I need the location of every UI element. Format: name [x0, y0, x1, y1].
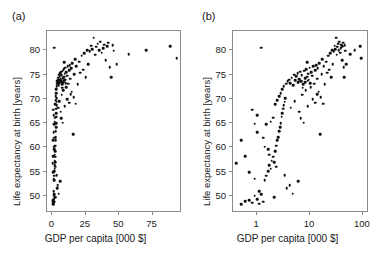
data-point: [253, 122, 256, 125]
data-point: [299, 117, 302, 120]
data-point: [145, 49, 148, 52]
data-point: [322, 103, 325, 106]
y-tick-mark: [43, 171, 46, 172]
panel-b-plot-area: [232, 30, 368, 212]
data-point: [299, 70, 302, 73]
x-tick-label: 50: [113, 218, 124, 229]
data-point: [63, 105, 66, 108]
data-point: [301, 93, 304, 96]
data-point: [71, 62, 74, 65]
data-point: [54, 196, 57, 199]
data-point: [54, 161, 57, 164]
data-point: [304, 89, 307, 92]
data-point: [335, 36, 338, 39]
data-point: [336, 45, 339, 48]
data-point: [269, 120, 272, 123]
data-point: [109, 66, 112, 69]
y-tick-mark: [43, 49, 46, 50]
data-point: [344, 50, 347, 53]
data-point: [54, 139, 57, 142]
data-point: [272, 117, 275, 120]
data-point: [274, 150, 277, 153]
data-point: [301, 86, 304, 89]
data-point: [66, 98, 69, 101]
data-point: [94, 53, 97, 56]
data-point: [54, 99, 57, 102]
data-point: [332, 63, 335, 66]
data-point: [253, 194, 256, 197]
panel-b-tag: (b): [202, 10, 215, 22]
y-tick-mark: [229, 122, 232, 123]
data-point: [279, 122, 282, 125]
data-point: [78, 60, 81, 63]
data-point: [57, 106, 60, 109]
data-point: [278, 130, 281, 133]
data-point: [291, 192, 294, 195]
x-tick-mark: [85, 212, 86, 215]
data-point: [256, 114, 259, 117]
data-point: [75, 65, 78, 68]
x-tick-mark: [152, 212, 153, 215]
data-point: [102, 47, 105, 50]
y-tick-mark: [229, 146, 232, 147]
data-point: [280, 116, 283, 119]
data-point: [316, 67, 319, 70]
data-point: [285, 83, 288, 86]
data-point: [53, 136, 56, 139]
x-tick-label: 25: [79, 218, 90, 229]
data-point: [298, 110, 301, 113]
data-point: [52, 162, 55, 165]
data-point: [67, 83, 70, 86]
data-point: [319, 133, 322, 136]
data-point: [53, 193, 56, 196]
data-point: [302, 121, 305, 124]
data-point: [55, 92, 58, 95]
data-point: [283, 101, 286, 104]
x-tick-label: 10: [304, 218, 315, 229]
data-point: [55, 95, 58, 98]
data-point: [288, 184, 291, 187]
data-point: [69, 93, 72, 96]
data-point: [279, 92, 282, 95]
data-point: [235, 162, 238, 165]
y-tick-label: 60: [204, 141, 226, 152]
data-point: [70, 67, 73, 70]
data-point: [349, 53, 352, 56]
data-point: [251, 202, 254, 205]
data-point: [339, 52, 342, 55]
data-point: [248, 171, 251, 174]
data-point: [292, 84, 295, 87]
data-point: [273, 161, 276, 164]
data-point: [110, 76, 113, 79]
data-point: [276, 99, 279, 102]
data-point: [341, 59, 344, 62]
data-point: [265, 174, 268, 177]
data-point: [314, 102, 317, 105]
data-point: [61, 121, 64, 124]
data-point: [316, 77, 319, 80]
y-tick-mark: [43, 74, 46, 75]
data-point: [87, 63, 90, 66]
data-point: [90, 44, 93, 47]
y-tick-label: 50: [18, 190, 40, 201]
y-tick-mark: [43, 146, 46, 147]
data-point: [57, 192, 60, 195]
data-point: [307, 105, 310, 108]
y-tick-label: 75: [204, 68, 226, 79]
figure-container: (a) Life expectancy at birth [years] GDP…: [0, 0, 383, 259]
data-point: [240, 139, 243, 142]
data-point: [328, 69, 331, 72]
data-point: [76, 83, 79, 86]
data-point: [64, 78, 67, 81]
data-point: [260, 46, 263, 49]
data-point: [84, 76, 87, 79]
data-point: [56, 187, 59, 190]
data-point: [262, 201, 265, 204]
y-tick-mark: [43, 98, 46, 99]
data-point: [105, 59, 108, 62]
data-point: [113, 50, 116, 53]
data-point: [275, 144, 278, 147]
y-tick-label: 55: [18, 165, 40, 176]
data-point: [69, 77, 72, 80]
data-point: [353, 49, 356, 52]
